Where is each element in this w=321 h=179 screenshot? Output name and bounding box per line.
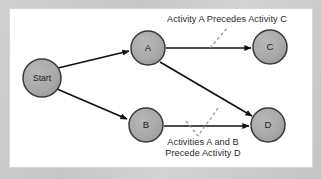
node-label-a: A: [145, 43, 151, 53]
annotation-ab-precede-d-line2: Precede Activity D: [148, 148, 258, 159]
edge-start-b: [57, 89, 127, 119]
annotation-ab-precede-d-line1: Activities A and B: [148, 137, 258, 148]
annotation-a-precedes-c: Activity A Precedes Activity C: [167, 14, 287, 25]
leader-line-top: [210, 27, 228, 48]
leader-line-bottom-left: [186, 121, 198, 136]
leader-line-bottom-right: [198, 108, 218, 136]
edge-a-d: [160, 62, 252, 116]
node-label-b: B: [143, 120, 149, 130]
diagram-screenshot: Start A B C D Activity A Precedes Activi…: [0, 0, 321, 179]
annotation-ab-precede-d: Activities A and B Precede Activity D: [148, 137, 258, 158]
node-label-start: Start: [33, 73, 51, 83]
node-label-c: C: [267, 42, 274, 52]
node-label-d: D: [265, 120, 272, 130]
edge-start-a: [58, 51, 129, 68]
